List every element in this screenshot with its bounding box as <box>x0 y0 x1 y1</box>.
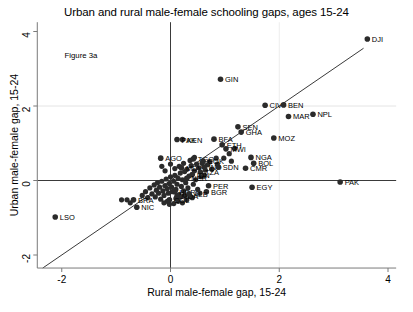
data-point-label-GIN: GIN <box>225 75 238 84</box>
scatter-plot: -2024-2024Rural male-female gap, 15-24Ur… <box>0 0 413 312</box>
data-point-COL <box>167 197 173 203</box>
data-point-CMR <box>243 165 249 171</box>
data-point-PAK <box>174 137 180 143</box>
data-point-label-CMR: CMR <box>250 164 268 173</box>
data-point-NIC <box>134 205 140 211</box>
data-point-CIV <box>262 102 268 108</box>
data-point-PAK2 <box>337 179 343 185</box>
data-point-BEN <box>281 102 287 108</box>
data-point-label-COL: COL <box>174 196 189 205</box>
data-point-label-EGY: EGY <box>257 183 273 192</box>
x-tick-label--2: -2 <box>57 274 66 285</box>
data-point-label-MOZ: MOZ <box>278 134 295 143</box>
data-point-AGO <box>158 155 164 161</box>
data-point-LSO <box>52 214 58 220</box>
data-point-DJI <box>365 36 371 42</box>
data-point-label-NER: NER <box>191 174 207 183</box>
data-point-label-NIC: NIC <box>141 203 155 212</box>
data-point-label-CIV: CIV <box>270 101 283 110</box>
data-point-NGA <box>248 155 254 161</box>
data-point-label-AGO: AGO <box>165 154 182 163</box>
data-point-SEN <box>235 124 241 130</box>
data-point-label-MAR: MAR <box>293 112 310 121</box>
data-point-BRA <box>131 197 137 203</box>
data-point <box>161 200 166 205</box>
x-tick-label-0: 0 <box>168 274 174 285</box>
x-axis-label: Rural male-female gap, 15-24 <box>147 286 286 298</box>
data-point <box>172 166 177 171</box>
x-tick-label-4: 4 <box>385 274 391 285</box>
data-point-label-BEN: BEN <box>288 101 303 110</box>
y-tick-label-4: 4 <box>21 32 32 38</box>
data-point-MOZ <box>271 135 277 141</box>
data-point-label-GHA: GHA <box>246 128 262 137</box>
data-point-label-PAK: PAK <box>182 136 196 145</box>
data-point-label-ALB: ALB <box>193 190 207 199</box>
data-point-EGY <box>249 184 255 190</box>
data-point <box>119 197 124 202</box>
data-point-ETH <box>219 142 225 148</box>
data-point-GHA <box>238 129 244 135</box>
data-point <box>143 189 148 194</box>
data-point-label-MWI: MWI <box>230 145 245 154</box>
data-point-label-PAK2: PAK <box>345 178 359 187</box>
data-point-BFA <box>211 136 217 142</box>
figure-annotation: Figure 3a <box>64 51 98 60</box>
y-tick-label-0: 0 <box>21 181 32 187</box>
data-point <box>147 185 152 190</box>
data-point-label-SDN: SDN <box>223 163 239 172</box>
data-point-MAR <box>286 114 292 120</box>
data-point-NPL <box>310 111 316 117</box>
data-point-MWI <box>223 146 229 152</box>
data-point-GIN <box>218 76 224 82</box>
data-point-TGO <box>191 156 197 162</box>
chart-root: Urban and rural male-female schooling ga… <box>0 0 413 312</box>
x-tick-label-2: 2 <box>276 274 282 285</box>
data-point-label-BGR: BGR <box>211 188 228 197</box>
y-axis-label: Urban male-female gap, 15-24 <box>8 74 20 217</box>
data-point <box>162 168 167 173</box>
data-point <box>159 164 164 169</box>
y-tick-label-2: 2 <box>21 106 32 112</box>
data-point-label-NPL: NPL <box>317 110 332 119</box>
data-point-label-DJI: DJI <box>372 35 383 44</box>
data-point-NER <box>184 175 190 181</box>
data-point-label-LSO: LSO <box>60 213 75 222</box>
data-point-MDV <box>179 165 185 171</box>
y-tick-label--2: -2 <box>21 254 32 263</box>
